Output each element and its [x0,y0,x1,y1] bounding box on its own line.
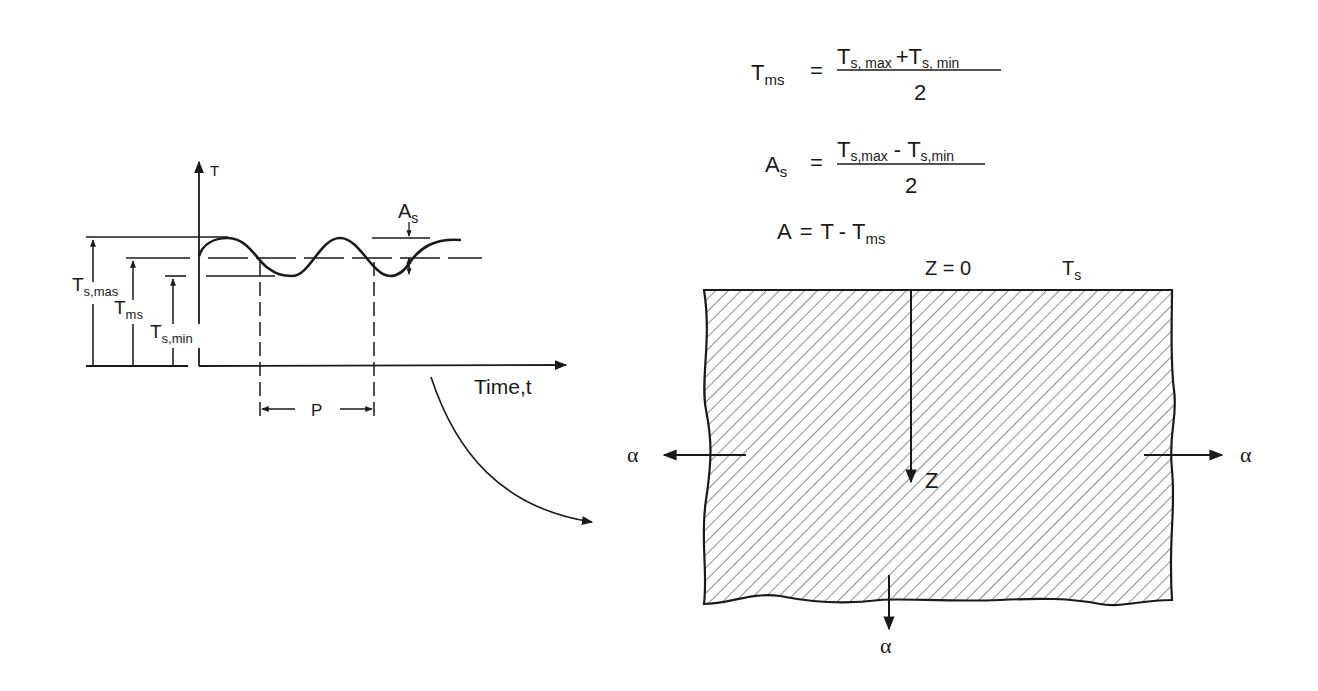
svg-text:Ts,max-Ts,min: Ts,max-Ts,min [837,137,954,164]
slab-body [704,290,1175,605]
y-axis-label: T [210,162,219,179]
x-axis-label: Time,t [474,375,532,398]
period-label: P [311,401,322,420]
amplitude-label: As [398,200,418,226]
x-axis [199,365,566,366]
svg-text:Ts, max+Ts, min: Ts, max+Ts, min [837,44,959,71]
formula-a: A=T-Tms [777,219,886,247]
slab-section: Z = 0 Ts Z α α α [627,257,1252,658]
svg-text:=: = [810,58,823,83]
tms-lhs: T [751,60,764,85]
alpha-right: α [1240,442,1252,467]
alpha-bottom: α [880,633,892,658]
formula-as: As = Ts,max-Ts,min 2 [765,137,985,198]
curved-arrow [431,377,592,522]
svg-text:2: 2 [914,80,926,105]
temperature-wave [199,238,461,276]
surface-temp-label: Ts [1062,257,1081,283]
svg-text:2: 2 [905,173,917,198]
surface-label: Z = 0 [925,257,971,279]
svg-text:As: As [765,152,787,180]
temperature-graph: T Time,t Ts,mas Tms Ts,min P [70,162,592,522]
svg-text:=: = [810,150,823,175]
formula-tms: Tms = Ts, max+Ts, min 2 [751,44,1001,105]
svg-text:Tms: Tms [751,60,784,88]
depth-label: Z [925,468,938,493]
svg-text:A=T-Tms: A=T-Tms [777,219,886,247]
alpha-left: α [627,442,639,467]
diagram-canvas: Tms = Ts, max+Ts, min 2 As = Ts,max-Ts,m… [0,0,1318,691]
